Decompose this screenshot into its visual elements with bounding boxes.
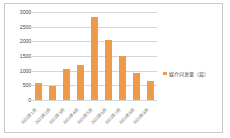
chart-legend: 媒介问发量（篇） [163, 70, 209, 77]
bar [77, 65, 84, 100]
y-axis-tick-label: 1500 [20, 53, 31, 59]
y-axis-tick-label: 3000 [20, 9, 31, 15]
bar [91, 17, 98, 100]
legend-swatch-icon [163, 72, 167, 76]
legend-label: 媒介问发量（篇） [169, 70, 209, 77]
y-axis-tick-label: 2500 [20, 24, 31, 30]
bar [35, 83, 42, 100]
y-axis-tick-label: 2000 [20, 38, 31, 44]
y-axis-tick-label: 500 [23, 82, 31, 88]
plot-area [31, 12, 157, 100]
bar [133, 73, 140, 100]
bar [147, 81, 154, 100]
bar [105, 40, 112, 100]
bar [63, 69, 70, 100]
bar [119, 56, 126, 100]
bar-series [31, 12, 157, 100]
x-axis: 2021年1月2021年2月2021年3月2021年4月2021年5月2021年… [31, 101, 157, 137]
bar [49, 86, 56, 100]
y-axis-tick-label: 1000 [20, 68, 31, 74]
chart-container: 300025002000150010005000 2021年1月2021年2月2… [4, 3, 223, 133]
y-axis: 300025002000150010005000 [9, 8, 31, 104]
